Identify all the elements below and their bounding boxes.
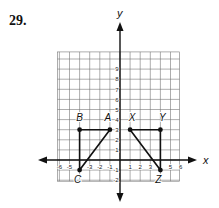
x-axis-arrow-left-icon [38, 157, 47, 164]
y-tick-label: -1 [113, 167, 119, 173]
vertex-label-z: Z [154, 174, 162, 185]
x-axis-arrow-right-icon [188, 157, 197, 164]
vertex-label-b: B [76, 112, 83, 123]
vertex-point-z [158, 168, 163, 173]
x-tick-label: -2 [97, 164, 103, 170]
vertex-point-c [77, 168, 82, 173]
vertex-label-x: X [128, 112, 136, 123]
x-tick-label: 5 [169, 164, 173, 170]
x-tick-label: 3 [149, 164, 153, 170]
vertex-point-a [108, 127, 113, 132]
y-axis-label: y [116, 7, 124, 19]
y-tick-label: -2 [113, 177, 119, 183]
y-axis-arrow-down-icon [117, 193, 124, 202]
x-tick-label: 1 [128, 164, 132, 170]
x-tick-label: -6 [57, 164, 63, 170]
coordinate-plane: xy-6-5-3-2-112356987654321-1-2ABCXYZ [0, 0, 219, 208]
vertex-point-y [158, 127, 163, 132]
y-axis-arrow-up-icon [117, 22, 124, 31]
vertex-label-y: Y [159, 112, 167, 123]
x-tick-label: 2 [139, 164, 143, 170]
vertex-label-a: A [104, 112, 112, 123]
x-axis-label: x [202, 154, 209, 166]
x-tick-label: -3 [87, 164, 93, 170]
x-tick-label: -5 [67, 164, 73, 170]
vertex-point-b [77, 127, 82, 132]
vertex-point-x [128, 127, 133, 132]
vertex-label-c: C [74, 174, 82, 185]
x-tick-label: 6 [179, 164, 183, 170]
